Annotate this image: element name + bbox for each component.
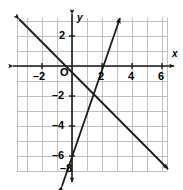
- x-tick-label-6: 6: [158, 71, 164, 82]
- graph-canvas: [0, 0, 183, 190]
- y-tick-label-minus-2: –2: [52, 90, 64, 101]
- y-tick-label-2: 2: [59, 30, 65, 41]
- coordinate-graph-figure: x y O –2 2 4 6 2 –2 –4 –6 –8: [0, 0, 183, 190]
- y-tick-label-minus-4: –4: [52, 120, 64, 131]
- rising-line: [62, 18, 120, 186]
- origin-label: O: [60, 67, 69, 78]
- y-tick-label-minus-8: –8: [60, 163, 72, 174]
- axis-lines: [13, 14, 174, 182]
- x-tick-label-2: 2: [98, 71, 104, 82]
- grid-lines: [17, 18, 167, 171]
- x-axis-name: x: [172, 49, 178, 59]
- y-axis-name: y: [77, 13, 83, 23]
- x-tick-label-minus-2: –2: [33, 71, 45, 82]
- y-tick-label-minus-6: –6: [52, 150, 64, 161]
- descending-line: [19, 19, 168, 169]
- x-tick-label-4: 4: [128, 71, 134, 82]
